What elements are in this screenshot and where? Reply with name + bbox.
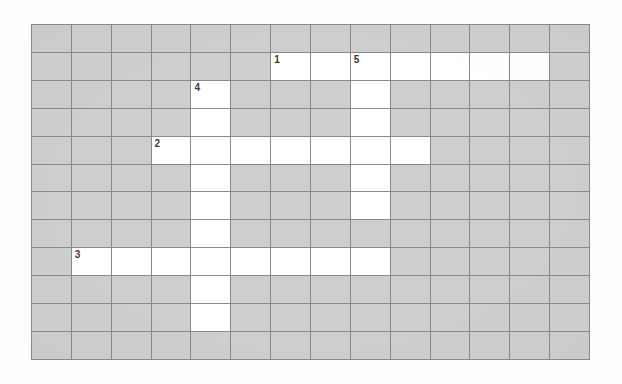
crossword-cell-blocked [72, 25, 111, 52]
crossword-cell-blocked [152, 53, 191, 80]
crossword-cell-blocked [470, 81, 509, 108]
crossword-cell-blocked [550, 332, 589, 359]
crossword-cell-blocked [152, 25, 191, 52]
crossword-cell-blocked [152, 304, 191, 331]
crossword-cell-blocked [391, 25, 430, 52]
crossword-cell-blocked [112, 25, 151, 52]
crossword-cell-blocked [311, 304, 350, 331]
crossword-cell-open[interactable] [311, 53, 350, 80]
crossword-cell-blocked [351, 220, 390, 247]
crossword-cell-blocked [470, 192, 509, 219]
crossword-cell-blocked [550, 81, 589, 108]
crossword-cell-blocked [470, 25, 509, 52]
crossword-cell-blocked [152, 332, 191, 359]
crossword-cell-blocked [391, 332, 430, 359]
crossword-cell-blocked [311, 25, 350, 52]
crossword-cell-blocked [32, 248, 71, 275]
crossword-cell-blocked [550, 25, 589, 52]
crossword-cell-blocked [231, 109, 270, 136]
crossword-cell-blocked [431, 304, 470, 331]
crossword-cell-blocked [271, 109, 310, 136]
crossword-cell-blocked [112, 332, 151, 359]
crossword-cell-open[interactable] [351, 192, 390, 219]
crossword-cell-open[interactable] [231, 137, 270, 164]
crossword-cell-blocked [510, 276, 549, 303]
crossword-cell-open[interactable] [191, 304, 230, 331]
crossword-cell-blocked [152, 276, 191, 303]
crossword-cell-open[interactable] [191, 220, 230, 247]
crossword-cell-blocked [231, 304, 270, 331]
crossword-cell-blocked [431, 137, 470, 164]
crossword-cell-blocked [112, 53, 151, 80]
crossword-cell-blocked [112, 304, 151, 331]
crossword-cell-open[interactable] [231, 248, 270, 275]
crossword-cell-blocked [510, 220, 549, 247]
crossword-cell-blocked [72, 165, 111, 192]
crossword-cell-blocked [231, 53, 270, 80]
crossword-cell-open[interactable] [191, 109, 230, 136]
crossword-cell-blocked [271, 165, 310, 192]
crossword-cell-open[interactable] [311, 137, 350, 164]
crossword-cell-open[interactable] [351, 248, 390, 275]
crossword-cell-open[interactable] [351, 109, 390, 136]
crossword-cell-open[interactable]: 3 [72, 248, 111, 275]
crossword-cell-blocked [351, 332, 390, 359]
crossword-cell-blocked [311, 276, 350, 303]
crossword-cell-blocked [32, 137, 71, 164]
crossword-cell-open[interactable] [470, 53, 509, 80]
crossword-cell-open[interactable] [351, 81, 390, 108]
crossword-cell-blocked [351, 304, 390, 331]
crossword-cell-blocked [510, 165, 549, 192]
crossword-cell-blocked [72, 304, 111, 331]
crossword-cell-blocked [32, 332, 71, 359]
crossword-cell-open[interactable] [191, 165, 230, 192]
crossword-cell-open[interactable]: 2 [152, 137, 191, 164]
crossword-cell-blocked [231, 276, 270, 303]
crossword-cell-blocked [431, 109, 470, 136]
crossword-cell-open[interactable] [351, 137, 390, 164]
crossword-cell-blocked [152, 165, 191, 192]
crossword-cell-blocked [431, 248, 470, 275]
crossword-cell-blocked [152, 220, 191, 247]
clue-number: 2 [155, 138, 161, 150]
crossword-cell-blocked [351, 276, 390, 303]
crossword-cell-blocked [550, 248, 589, 275]
crossword-cell-open[interactable] [311, 248, 350, 275]
crossword-cell-open[interactable] [191, 192, 230, 219]
crossword-cell-open[interactable] [391, 137, 430, 164]
crossword-cell-blocked [470, 165, 509, 192]
crossword-cell-blocked [470, 332, 509, 359]
crossword-cell-blocked [391, 304, 430, 331]
crossword-cell-open[interactable] [351, 165, 390, 192]
crossword-cell-open[interactable] [152, 248, 191, 275]
crossword-cell-blocked [32, 165, 71, 192]
crossword-cell-open[interactable] [191, 248, 230, 275]
crossword-cell-blocked [32, 192, 71, 219]
crossword-grid[interactable]: 15423 [31, 24, 590, 360]
crossword-cell-blocked [431, 81, 470, 108]
crossword-cell-open[interactable]: 1 [271, 53, 310, 80]
crossword-cell-open[interactable] [271, 248, 310, 275]
crossword-cell-blocked [72, 109, 111, 136]
crossword-cell-open[interactable] [191, 276, 230, 303]
crossword-cell-blocked [311, 332, 350, 359]
crossword-cell-blocked [271, 304, 310, 331]
crossword-cell-blocked [510, 137, 549, 164]
crossword-cell-blocked [112, 137, 151, 164]
crossword-cell-open[interactable] [391, 53, 430, 80]
crossword-cell-open[interactable] [191, 137, 230, 164]
crossword-cell-blocked [470, 137, 509, 164]
crossword-cell-blocked [431, 165, 470, 192]
crossword-cell-open[interactable]: 5 [351, 53, 390, 80]
crossword-cell-open[interactable] [510, 53, 549, 80]
crossword-cell-blocked [311, 109, 350, 136]
crossword-cell-blocked [391, 192, 430, 219]
crossword-cell-blocked [510, 304, 549, 331]
crossword-cell-open[interactable] [271, 137, 310, 164]
crossword-cell-open[interactable]: 4 [191, 81, 230, 108]
crossword-cell-open[interactable] [431, 53, 470, 80]
crossword-cell-blocked [271, 192, 310, 219]
crossword-cell-open[interactable] [112, 248, 151, 275]
crossword-cell-blocked [112, 220, 151, 247]
crossword-puzzle: 15423 [31, 24, 590, 360]
